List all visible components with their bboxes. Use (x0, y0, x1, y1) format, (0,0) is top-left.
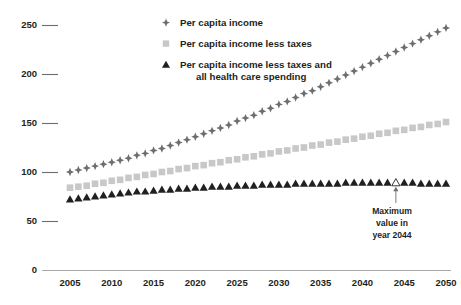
data-marker (225, 121, 233, 129)
data-marker (325, 79, 333, 87)
data-marker (166, 141, 174, 149)
data-marker (99, 160, 107, 168)
data-marker (225, 183, 233, 190)
data-marker (225, 157, 232, 164)
data-marker (191, 133, 199, 141)
data-marker (192, 163, 199, 170)
legend-marker-square (163, 40, 169, 46)
data-marker (301, 144, 308, 151)
data-marker (67, 184, 74, 191)
data-marker (291, 180, 299, 187)
data-marker (434, 121, 441, 128)
data-marker (233, 182, 241, 189)
data-marker (217, 159, 224, 166)
data-marker (209, 160, 216, 167)
data-marker (266, 104, 274, 112)
data-marker (241, 114, 249, 122)
data-marker (233, 117, 241, 125)
data-marker (417, 36, 425, 44)
data-marker (408, 179, 416, 186)
data-marker (83, 193, 91, 200)
data-marker (258, 107, 266, 115)
data-marker (442, 24, 450, 32)
data-marker (401, 127, 408, 134)
data-marker (393, 128, 400, 135)
data-marker (409, 125, 416, 132)
data-marker (74, 194, 82, 201)
data-marker (400, 179, 408, 186)
data-marker (266, 181, 274, 188)
legend-label-1: Per capita income (180, 17, 264, 28)
data-marker (425, 180, 433, 187)
data-marker (317, 180, 325, 187)
data-marker (325, 180, 333, 187)
data-marker (167, 168, 174, 175)
data-marker (100, 179, 107, 186)
data-marker (425, 32, 433, 40)
x-tick-label: 2030 (268, 277, 289, 288)
data-marker (191, 183, 199, 190)
data-marker (283, 97, 291, 105)
data-marker (358, 179, 366, 186)
data-marker (200, 183, 208, 190)
data-marker (283, 181, 291, 188)
data-marker (368, 132, 375, 139)
x-tick-label: 2005 (59, 277, 81, 288)
x-tick-label: 2020 (185, 277, 206, 288)
data-marker (292, 93, 300, 101)
data-marker (300, 89, 308, 97)
series-marker-layer (66, 24, 450, 203)
data-marker (66, 195, 74, 202)
y-tick-label: 50 (26, 215, 37, 226)
data-marker (308, 180, 316, 187)
highlight-marker (392, 179, 400, 186)
x-tick-label: 2045 (394, 277, 416, 288)
data-marker (351, 135, 358, 142)
data-marker (258, 181, 266, 188)
data-marker (392, 47, 400, 55)
data-marker (408, 39, 416, 47)
legend-marker-triangle (162, 61, 170, 68)
y-tick-label: 0 (32, 264, 37, 275)
data-marker (200, 130, 208, 138)
data-marker (216, 124, 224, 132)
data-marker (334, 138, 341, 145)
data-marker (358, 63, 366, 71)
chart-container: 050100150200250 200520102015202020252030… (0, 0, 461, 305)
data-marker (208, 183, 216, 190)
data-marker (159, 169, 166, 176)
data-marker (309, 142, 316, 149)
data-marker (317, 83, 325, 91)
data-marker (125, 175, 132, 182)
data-marker (158, 144, 166, 152)
data-marker (124, 154, 132, 162)
data-marker (133, 187, 141, 194)
data-marker (234, 156, 241, 163)
data-marker (250, 182, 258, 189)
y-tick-label: 250 (21, 19, 37, 30)
data-marker (275, 100, 283, 108)
series-2-markers (67, 119, 450, 191)
data-marker (92, 180, 99, 187)
data-marker (275, 181, 283, 188)
data-marker (124, 188, 132, 195)
legend-label-2: Per capita income less taxes (180, 38, 312, 49)
income-projection-chart: 050100150200250 200520102015202020252030… (0, 0, 461, 305)
annotation-arrowhead (393, 187, 398, 191)
data-marker (149, 146, 157, 154)
data-marker (308, 86, 316, 94)
legend-label-3-line2: all health care spending (196, 71, 306, 82)
x-axis-tick-group: 2005201020152020202520302035204020452050 (59, 277, 456, 288)
x-tick-label: 2050 (435, 277, 456, 288)
data-marker (383, 51, 391, 59)
x-tick-label: 2040 (352, 277, 373, 288)
data-marker (350, 67, 358, 75)
data-marker (91, 192, 99, 199)
y-tick-label: 100 (21, 166, 37, 177)
data-marker (108, 190, 116, 197)
data-marker (134, 174, 141, 181)
annotation-line-3: year 2044 (372, 230, 411, 240)
annotation-leader-line (393, 187, 398, 203)
x-tick-label: 2010 (101, 277, 122, 288)
data-marker (418, 124, 425, 131)
